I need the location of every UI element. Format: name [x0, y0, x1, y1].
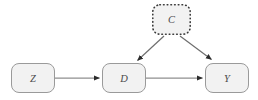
node-z-label: Z — [30, 73, 36, 84]
edge-c-to-y — [180, 36, 212, 60]
node-z[interactable]: Z — [12, 64, 55, 93]
node-y[interactable]: Y — [206, 64, 249, 93]
node-c-label: C — [168, 14, 176, 25]
causal-dag-diagram: Z D Y C — [0, 0, 258, 100]
node-d[interactable]: D — [103, 64, 146, 93]
edge-c-to-d — [138, 36, 165, 61]
node-d-label: D — [119, 73, 128, 84]
node-c[interactable]: C — [153, 5, 190, 34]
dag-canvas: Z D Y C — [0, 0, 258, 100]
